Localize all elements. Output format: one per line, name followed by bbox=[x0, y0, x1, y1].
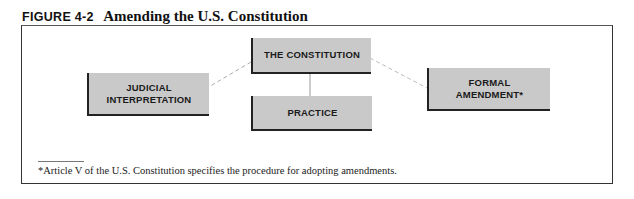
node-the-constitution: THE CONSTITUTION bbox=[251, 38, 371, 74]
node-formal-amendment: FORMALAMENDMENT* bbox=[427, 68, 550, 111]
node-practice: PRACTICE bbox=[251, 96, 372, 131]
footnote: *Article V of the U.S. Constitution spec… bbox=[38, 165, 397, 176]
node-judicial-interpretation: JUDICIALINTERPRETATION bbox=[87, 73, 209, 116]
footnote-rule bbox=[38, 161, 84, 162]
edge-constitution-judicial bbox=[207, 62, 251, 88]
edge-constitution-formal bbox=[370, 58, 427, 88]
